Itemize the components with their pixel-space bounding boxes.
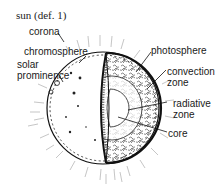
label-convection-zone-line2: zone	[167, 78, 189, 88]
label-chromosphere: chromosphere	[24, 47, 88, 57]
label-solar-prominence-line2: prominence	[17, 71, 69, 81]
label-solar-prominence-line1: solar	[17, 60, 39, 70]
label-radiative-zone-line2: zone	[173, 110, 195, 120]
label-core: core	[168, 129, 187, 139]
label-corona: corona	[29, 27, 60, 37]
label-radiative-zone-line1: radiative	[173, 99, 211, 109]
label-photosphere: photosphere	[151, 46, 207, 56]
label-convection-zone-line1: convection	[167, 67, 215, 77]
